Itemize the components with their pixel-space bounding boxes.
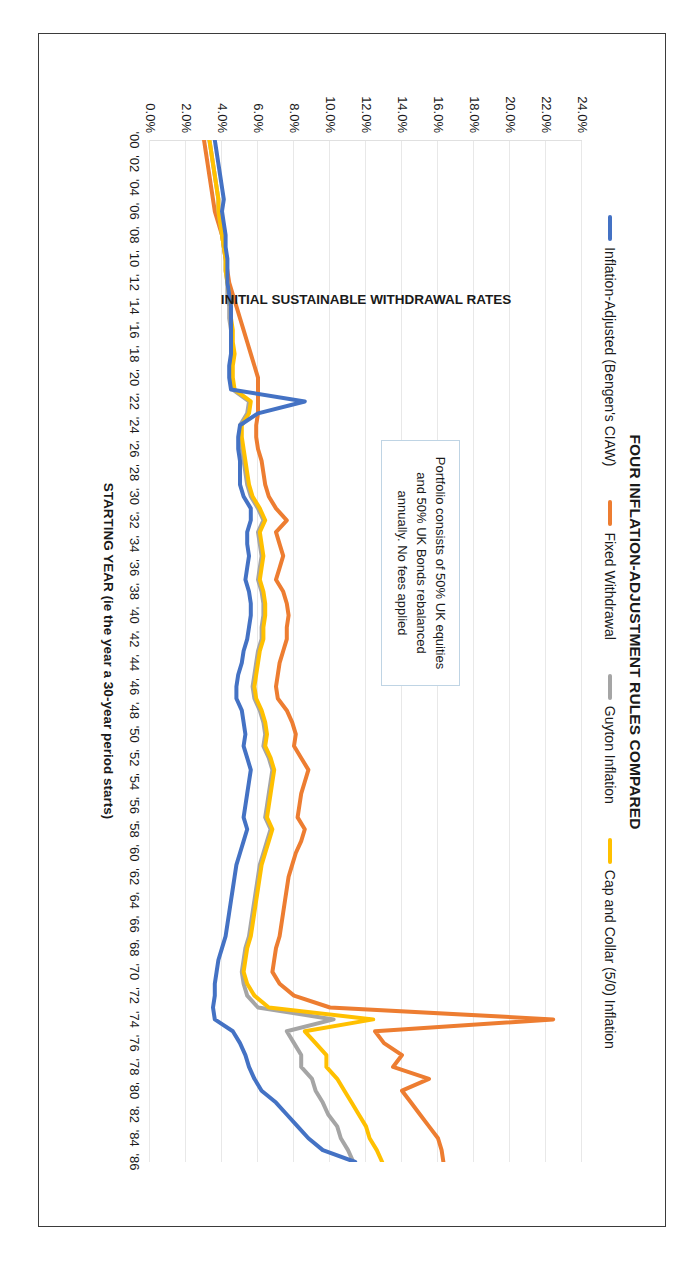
x-axis-tick-label: '52 xyxy=(127,749,142,766)
plot-area: 0.0%2.0%4.0%6.0%8.0%10.0%12.0%14.0%16.0%… xyxy=(150,140,582,1162)
x-axis-tick-label: '68 xyxy=(127,940,142,957)
legend-label: Guyton Inflation xyxy=(602,706,618,804)
x-axis-tick-label: '12 xyxy=(127,274,142,291)
x-axis-tick-label: '74 xyxy=(127,1011,142,1028)
x-axis-tick-label: '64 xyxy=(127,892,142,909)
x-axis-tick-label: '60 xyxy=(127,845,142,862)
legend-item-3[interactable]: Cap and Collar (5/0) Inflation xyxy=(602,838,618,1049)
x-axis-tick-label: '10 xyxy=(127,250,142,267)
x-axis-tick-label: '54 xyxy=(127,773,142,790)
x-axis-tick-label: '58 xyxy=(127,821,142,838)
x-axis-tick-label: '84 xyxy=(127,1130,142,1147)
y-axis-title: INITIAL SUSTAINABLE WITHDRAWAL RATES xyxy=(221,292,512,307)
x-axis-tick-label: '72 xyxy=(127,987,142,1004)
x-axis-tick-label: '40 xyxy=(127,607,142,624)
x-axis-tick-label: '30 xyxy=(127,488,142,505)
x-axis-tick-label: '36 xyxy=(127,559,142,576)
x-axis-title: STARTING YEAR (ie the year a 30-year per… xyxy=(101,140,116,1162)
legend-item-0[interactable]: Inflation-Adjusted (Bengen's CIAW) xyxy=(602,215,618,466)
x-axis-tick-label: '48 xyxy=(127,702,142,719)
y-axis-tick-label: 6.0% xyxy=(251,103,266,133)
x-axis-tick-label: '42 xyxy=(127,631,142,648)
x-axis-tick-label: '24 xyxy=(127,417,142,434)
legend-item-1[interactable]: Fixed Withdrawal xyxy=(602,500,618,639)
page-canvas: FOUR INFLATION-ADJUSTMENT RULES COMPARED… xyxy=(0,0,700,1265)
x-axis-tick-label: '78 xyxy=(127,1058,142,1075)
y-axis-tick-label: 2.0% xyxy=(179,103,194,133)
legend-swatch-icon xyxy=(608,674,612,700)
x-axis-tick-label: '18 xyxy=(127,345,142,362)
x-axis-tick-label: '66 xyxy=(127,916,142,933)
x-axis-tick-label: '82 xyxy=(127,1106,142,1123)
x-axis-tick-label: '38 xyxy=(127,583,142,600)
y-axis-tick-label: 8.0% xyxy=(287,103,302,133)
legend-item-2[interactable]: Guyton Inflation xyxy=(602,674,618,804)
x-axis-tick-label: '86 xyxy=(127,1154,142,1171)
x-axis-tick-label: '26 xyxy=(127,440,142,457)
legend-swatch-icon xyxy=(608,500,612,526)
legend-label: Fixed Withdrawal xyxy=(602,532,618,639)
x-axis-tick-label: '20 xyxy=(127,369,142,386)
chart-legend: Inflation-Adjusted (Bengen's CIAW)Fixed … xyxy=(602,52,618,1212)
rotated-chart-container: FOUR INFLATION-ADJUSTMENT RULES COMPARED… xyxy=(50,52,650,1212)
legend-label: Cap and Collar (5/0) Inflation xyxy=(602,870,618,1049)
x-axis-tick-label: '70 xyxy=(127,963,142,980)
y-axis-tick-label: 16.0% xyxy=(431,96,446,133)
x-axis-tick-label: '22 xyxy=(127,393,142,410)
y-axis-tick-label: 0.0% xyxy=(143,103,158,133)
y-axis-tick-label: 18.0% xyxy=(467,96,482,133)
x-axis-tick-label: '08 xyxy=(127,227,142,244)
y-axis-tick-label: 22.0% xyxy=(539,96,554,133)
x-axis-tick-label: '46 xyxy=(127,678,142,695)
x-axis-tick-label: '28 xyxy=(127,464,142,481)
y-axis-tick-label: 20.0% xyxy=(503,96,518,133)
chart-title: FOUR INFLATION-ADJUSTMENT RULES COMPARED xyxy=(626,52,644,1212)
x-axis-tick-label: '16 xyxy=(127,322,142,339)
legend-swatch-icon xyxy=(608,838,612,864)
x-axis-tick-label: '44 xyxy=(127,654,142,671)
y-axis-tick-label: 4.0% xyxy=(215,103,230,133)
x-axis-tick-label: '04 xyxy=(127,179,142,196)
y-axis-tick-label: 10.0% xyxy=(323,96,338,133)
x-axis-tick-label: '00 xyxy=(127,132,142,149)
x-axis-tick-label: '32 xyxy=(127,512,142,529)
annotation-textbox: Portfolio consists of 50% UK equities an… xyxy=(381,440,460,686)
x-axis-tick-label: '62 xyxy=(127,868,142,885)
x-axis-tick-label: '34 xyxy=(127,536,142,553)
x-axis-tick-label: '06 xyxy=(127,203,142,220)
y-axis-tick-label: 14.0% xyxy=(395,96,410,133)
legend-label: Inflation-Adjusted (Bengen's CIAW) xyxy=(602,247,618,466)
legend-swatch-icon xyxy=(608,215,612,241)
y-axis-tick-label: 12.0% xyxy=(359,96,374,133)
x-axis-tick-label: '14 xyxy=(127,298,142,315)
x-axis-tick-label: '80 xyxy=(127,1082,142,1099)
x-axis-tick-label: '56 xyxy=(127,797,142,814)
x-axis-tick-label: '02 xyxy=(127,155,142,172)
y-axis-tick-label: 24.0% xyxy=(575,96,590,133)
x-axis-tick-label: '76 xyxy=(127,1035,142,1052)
x-axis-tick-label: '50 xyxy=(127,726,142,743)
